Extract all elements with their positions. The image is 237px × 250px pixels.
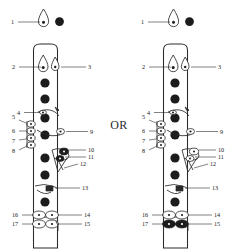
callout-8: 8: [142, 147, 145, 154]
callout-3: 3: [218, 63, 221, 70]
callout-14: 14: [214, 211, 220, 218]
headjoint-piece-right: [168, 9, 194, 27]
headjoint-piece-left: [38, 9, 63, 27]
tone-hole-1-right: [170, 78, 179, 87]
callout-11: 11: [88, 153, 94, 160]
callout-8: 8: [12, 147, 15, 154]
callout-5: 5: [142, 113, 145, 120]
tone-hole-6-right: [170, 170, 179, 179]
callout-15: 15: [214, 220, 220, 227]
callout-11: 11: [218, 153, 224, 160]
tone-hole-5-right: [170, 153, 179, 162]
callout-9: 9: [90, 128, 93, 135]
callout-13: 13: [82, 184, 88, 191]
callout-12: 12: [210, 160, 216, 167]
callout-16: 16: [142, 211, 148, 218]
tone-hole-7-left: [40, 197, 49, 206]
tone-hole-2-right: [170, 94, 179, 103]
callout-7: 7: [142, 137, 145, 144]
tone-hole-5-left: [40, 153, 49, 162]
tone-hole-1-left: [40, 78, 49, 87]
callout-14: 14: [84, 211, 90, 218]
callout-6: 6: [12, 127, 15, 134]
callout-6: 6: [142, 127, 145, 134]
callout-16: 16: [12, 211, 18, 218]
callout-10: 10: [218, 146, 224, 153]
callout-17: 17: [12, 220, 18, 227]
tone-hole-2-left: [40, 94, 49, 103]
callout-9: 9: [220, 128, 223, 135]
tone-hole-7-right: [170, 197, 179, 206]
callout-12: 12: [80, 160, 86, 167]
callout-7: 7: [12, 137, 15, 144]
callout-13: 13: [212, 184, 218, 191]
callout-4: 4: [147, 109, 150, 116]
callout-5: 5: [12, 113, 15, 120]
callout-10: 10: [88, 146, 94, 153]
callout-3: 3: [88, 63, 91, 70]
callout-2: 2: [142, 63, 145, 70]
flute-diagram-left: 1 2 3 4 5 6 7 8 9 10 11 12 13 14 15 16 1…: [0, 0, 107, 250]
callout-1: 1: [11, 18, 14, 25]
callout-1: 1: [141, 18, 144, 25]
flute-callout-figure: 1 2 3 4 5 6 7 8 9 10 11 12 13 14 15 16 1…: [0, 0, 237, 250]
flute-diagram-right: 1 2 3 4 5 6 7 8 9 10 11 12 13 14 15 16 1…: [130, 0, 237, 250]
callout-17: 17: [142, 220, 148, 227]
callout-15: 15: [84, 220, 90, 227]
callout-2: 2: [12, 63, 15, 70]
callout-4: 4: [17, 109, 20, 116]
tone-hole-6-left: [40, 170, 49, 179]
